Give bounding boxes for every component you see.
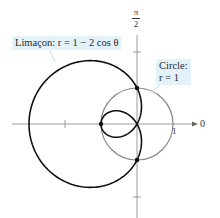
circle-leader-line [150, 85, 160, 93]
intersection-point-left [99, 122, 103, 126]
circle-label: Circle: r = 1 [156, 59, 191, 85]
limacon-label: Limaçon: r = 1 − 2 cos θ [12, 36, 121, 50]
polar-axis-arrow-icon [192, 122, 198, 127]
pi-denominator: 2 [132, 20, 140, 29]
polar-plot [0, 0, 220, 218]
circle-label-line1: Circle: [159, 60, 188, 72]
pi-numerator: π [132, 8, 140, 17]
radius-one-label: 1 [172, 126, 177, 136]
intersection-point-bottom [135, 158, 139, 162]
pi-over-2-label: π 2 [132, 8, 140, 29]
zero-angle-label: 0 [200, 118, 205, 129]
limacon-leader-line [50, 51, 55, 62]
circle-label-line2: r = 1 [159, 72, 188, 84]
intersection-point-top [135, 86, 139, 90]
